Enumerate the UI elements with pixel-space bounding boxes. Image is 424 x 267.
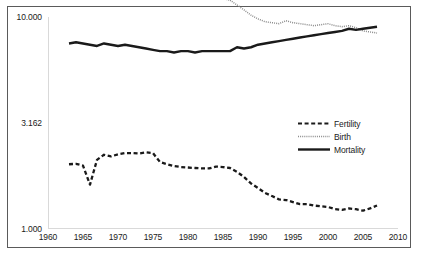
chart-legend: Fertility Birth Mortality <box>297 117 383 156</box>
chart-frame: 10.0003.1621.000 19601965197019751980198… <box>7 6 411 248</box>
legend-swatch-mortality <box>297 144 331 155</box>
x-axis-tick-label: 1990 <box>243 232 273 242</box>
x-axis-tick-label: 1975 <box>138 232 168 242</box>
y-axis-tick-label: 3.162 <box>8 118 42 128</box>
legend-item-birth: Birth <box>297 130 383 143</box>
x-axis-tick-label: 2005 <box>348 232 378 242</box>
series-group <box>69 0 377 211</box>
x-axis-tick-label: 1985 <box>208 232 238 242</box>
legend-item-fertility: Fertility <box>297 117 383 130</box>
x-axis-tick-label: 2000 <box>313 232 343 242</box>
x-axis-tick-label: 1980 <box>173 232 203 242</box>
x-axis-tick-label: 1995 <box>278 232 308 242</box>
series-line-fertility <box>69 152 377 210</box>
series-line-mortality <box>69 27 377 53</box>
legend-label-birth: Birth <box>331 132 351 142</box>
series-line-birth <box>69 0 377 33</box>
x-axis-tick-label: 2010 <box>383 232 413 242</box>
legend-swatch-birth <box>297 131 331 142</box>
legend-label-fertility: Fertility <box>331 119 361 129</box>
legend-swatch-fertility <box>297 118 331 129</box>
legend-item-mortality: Mortality <box>297 143 383 156</box>
x-axis-tick-label: 1970 <box>103 232 133 242</box>
x-axis-tick-label: 1965 <box>68 232 98 242</box>
legend-label-mortality: Mortality <box>331 145 365 155</box>
x-axis-tick-label: 1960 <box>33 232 63 242</box>
y-axis-tick-label: 10.000 <box>8 12 42 22</box>
